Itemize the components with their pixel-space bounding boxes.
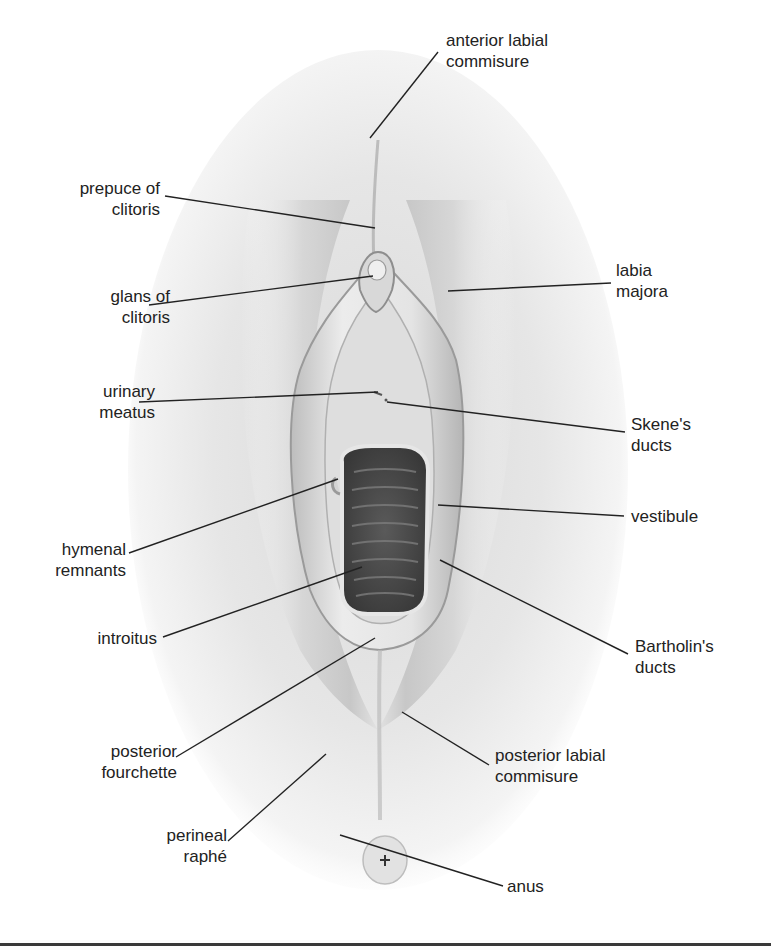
label-text-line: majora [616, 281, 668, 302]
label-text-line: posterior [95, 741, 177, 762]
label-perineal-raphe: perinealraphé [143, 825, 227, 867]
label-text-line: urinary [60, 381, 155, 402]
label-text-line: commisure [446, 51, 548, 72]
label-text-line: ducts [635, 657, 714, 678]
label-text-line: clitoris [58, 199, 160, 220]
label-text-line: vestibule [631, 506, 698, 527]
label-text-line: introitus [82, 628, 157, 649]
label-text-line: fourchette [95, 762, 177, 783]
label-text-line: hymenal [40, 539, 126, 560]
label-prepuce-of-clitoris: prepuce ofclitoris [58, 178, 160, 220]
label-text-line: remnants [40, 560, 126, 581]
label-introitus: introitus [82, 628, 157, 649]
label-text-line: glans of [60, 286, 170, 307]
label-bartholins-ducts: Bartholin'sducts [635, 636, 714, 678]
label-text-line: labia [616, 260, 668, 281]
label-vestibule: vestibule [631, 506, 698, 527]
label-text-line: raphé [143, 846, 227, 867]
label-hymenal-remnants: hymenalremnants [40, 539, 126, 581]
anatomy-diagram: anterior labialcommisureprepuce ofclitor… [0, 0, 771, 946]
label-text-line: clitoris [60, 307, 170, 328]
label-text-line: anus [507, 876, 544, 897]
label-text-line: prepuce of [58, 178, 160, 199]
label-text-line: anterior labial [446, 30, 548, 51]
label-text-line: perineal [143, 825, 227, 846]
label-posterior-fourchette: posteriorfourchette [95, 741, 177, 783]
label-text-line: meatus [60, 402, 155, 423]
label-text-line: commisure [495, 766, 606, 787]
label-text-line: Bartholin's [635, 636, 714, 657]
label-skenes-ducts: Skene'sducts [631, 414, 691, 456]
label-glans-of-clitoris: glans ofclitoris [60, 286, 170, 328]
label-text-line: Skene's [631, 414, 691, 435]
label-anterior-labial-commisure: anterior labialcommisure [446, 30, 548, 72]
label-labia-majora: labiamajora [616, 260, 668, 302]
vulva-illustration [0, 0, 771, 946]
label-text-line: posterior labial [495, 745, 606, 766]
label-anus: anus [507, 876, 544, 897]
label-posterior-labial-commisure: posterior labialcommisure [495, 745, 606, 787]
label-urinary-meatus: urinarymeatus [60, 381, 155, 423]
label-text-line: ducts [631, 435, 691, 456]
